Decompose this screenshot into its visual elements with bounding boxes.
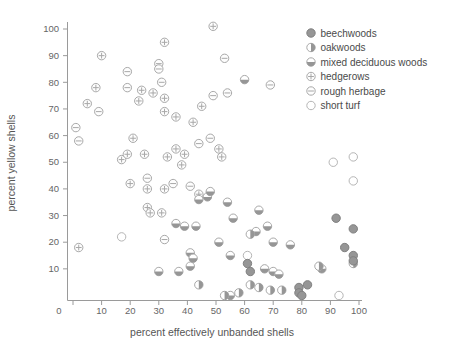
data-point-mixed-deciduous-woods [215, 238, 223, 246]
y-tick-label: 30 [48, 210, 59, 221]
data-point-beechwoods [349, 257, 357, 265]
data-point-short-turf [349, 177, 357, 185]
data-point-hedgerows [83, 99, 91, 107]
legend-marker-circle-minus [307, 87, 315, 95]
data-point-short-turf [335, 291, 343, 299]
legend-item-oakwoods: oakwoods [307, 42, 366, 53]
data-point-beechwoods [349, 225, 357, 233]
data-point-hedgerows [177, 161, 185, 169]
data-point-rough-herbage [75, 137, 83, 145]
data-point-oakwoods [315, 262, 323, 270]
legend-item-hedgerows: hedgerows [307, 71, 370, 82]
y-tick-label: 10 [48, 263, 59, 274]
data-point-mixed-deciduous-woods [155, 267, 163, 275]
y-axis-label: percent yellow shells [5, 115, 17, 212]
data-point-hedgerows [180, 150, 188, 158]
axis-lines [68, 22, 363, 301]
legend-item-mixed-deciduous-woods: mixed deciduous woods [307, 57, 427, 68]
figure: 0102030405060708090100 10203040506070809… [0, 0, 455, 351]
data-point-mixed-deciduous-woods [186, 262, 194, 270]
data-point-beechwoods [246, 267, 254, 275]
data-point-hedgerows [172, 145, 180, 153]
data-point-hedgerows [209, 22, 217, 30]
y-tick-label: 80 [48, 77, 59, 88]
data-point-hedgerows [97, 51, 105, 59]
x-tick-label: 80 [297, 305, 308, 316]
x-tick-label: 20 [125, 305, 136, 316]
legend-label: rough herbage [321, 86, 386, 97]
legend-item-beechwoods: beechwoods [307, 28, 377, 39]
data-point-oakwoods [246, 281, 254, 289]
legend-item-short-turf: short turf [307, 100, 360, 111]
data-point-mixed-deciduous-woods [175, 267, 183, 275]
data-point-mixed-deciduous-woods [269, 238, 277, 246]
data-point-beechwoods [332, 214, 340, 222]
data-point-hedgerows [135, 97, 143, 105]
legend-marker-circle-plus [307, 72, 315, 80]
x-axis-label: percent effectively unbanded shells [130, 326, 294, 338]
data-point-rough-herbage [186, 182, 194, 190]
legend-marker-half-filled-circle-horizontal [307, 58, 315, 66]
data-point-beechwoods [298, 291, 306, 299]
y-tick-label: 70 [48, 103, 59, 114]
data-point-oakwoods [235, 289, 243, 297]
data-point-rough-herbage [155, 65, 163, 73]
x-tick-label: 100 [351, 305, 367, 316]
data-point-short-turf [329, 158, 337, 166]
data-point-short-turf [117, 233, 125, 241]
y-tick-label: 40 [48, 183, 59, 194]
data-point-mixed-deciduous-woods [195, 195, 203, 203]
data-point-beechwoods [243, 259, 251, 267]
data-point-oakwoods [220, 291, 228, 299]
data-point-mixed-deciduous-woods [275, 270, 283, 278]
data-point-mixed-deciduous-woods [255, 206, 263, 214]
data-point-hedgerows [92, 83, 100, 91]
x-tick-label: 0 [56, 305, 61, 316]
data-point-hedgerows [163, 153, 171, 161]
data-point-rough-herbage [169, 179, 177, 187]
data-point-short-turf [243, 251, 251, 259]
data-point-mixed-deciduous-woods [226, 251, 234, 259]
data-point-mixed-deciduous-woods [206, 187, 214, 195]
y-tick-label: 20 [48, 236, 59, 247]
y-tick-label: 60 [48, 130, 59, 141]
y-tick-label: 100 [43, 23, 59, 34]
data-point-mixed-deciduous-woods [240, 75, 248, 83]
data-point-hedgerows [149, 89, 157, 97]
data-point-hedgerows [137, 86, 145, 94]
data-point-mixed-deciduous-woods [180, 222, 188, 230]
data-point-oakwoods [246, 230, 254, 238]
data-point-rough-herbage [160, 235, 168, 243]
legend-label: mixed deciduous woods [321, 57, 428, 68]
x-tick-label: 30 [154, 305, 165, 316]
data-point-hedgerows [143, 185, 151, 193]
data-point-mixed-deciduous-woods [172, 219, 180, 227]
legend-marker-filled-circle [307, 29, 315, 37]
x-tick-label: 70 [268, 305, 279, 316]
data-point-hedgerows [215, 145, 223, 153]
x-tick-label: 50 [211, 305, 222, 316]
data-point-short-turf [349, 153, 357, 161]
data-point-hedgerows [123, 150, 131, 158]
data-point-rough-herbage [195, 139, 203, 147]
data-point-rough-herbage [206, 134, 214, 142]
data-point-hedgerows [160, 38, 168, 46]
y-axis-ticks: 102030405060708090100 [43, 23, 67, 274]
data-point-rough-herbage [157, 78, 165, 86]
cepaea-scatter-chart: 0102030405060708090100 10203040506070809… [0, 0, 455, 351]
data-point-rough-herbage [209, 91, 217, 99]
data-point-hedgerows [198, 102, 206, 110]
data-point-mixed-deciduous-woods [229, 214, 237, 222]
data-point-hedgerows [126, 179, 134, 187]
data-point-beechwoods [303, 281, 311, 289]
data-point-rough-herbage [123, 67, 131, 75]
legend-label: short turf [321, 100, 361, 111]
data-point-hedgerows [129, 134, 137, 142]
data-point-mixed-deciduous-woods [263, 222, 271, 230]
data-point-rough-herbage [143, 174, 151, 182]
data-point-hedgerows [160, 94, 168, 102]
legend-marker-half-filled-circle-vertical [307, 43, 315, 51]
x-axis-ticks: 0102030405060708090100 [56, 301, 367, 317]
data-point-rough-herbage [95, 107, 103, 115]
data-point-rough-herbage [266, 81, 274, 89]
